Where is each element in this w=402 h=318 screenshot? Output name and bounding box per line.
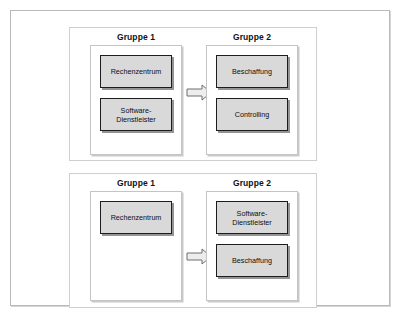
unit-box: Controlling bbox=[216, 98, 288, 131]
unit-label: Controlling bbox=[234, 110, 270, 119]
unit-box: Rechenzentrum bbox=[100, 201, 172, 234]
group-column-right-bottom: Gruppe 2 Software- Dienstleister Beschaf… bbox=[200, 178, 304, 304]
unit-box: Beschaffung bbox=[216, 244, 288, 277]
group-title: Gruppe 2 bbox=[200, 178, 304, 191]
unit-label-line-1: Software- bbox=[115, 106, 157, 115]
group-title: Gruppe 1 bbox=[84, 178, 188, 191]
group-title: Gruppe 2 bbox=[200, 32, 304, 45]
unit-box: Beschaffung bbox=[216, 55, 288, 88]
group-panel: Beschaffung Controlling bbox=[206, 45, 298, 155]
group-title: Gruppe 1 bbox=[84, 32, 188, 45]
unit-label-line-2: Dienstleister bbox=[231, 218, 273, 227]
group-panel: Rechenzentrum bbox=[90, 191, 182, 301]
unit-label: Rechenzentrum bbox=[110, 213, 163, 222]
group-panel: Software- Dienstleister Beschaffung bbox=[206, 191, 298, 301]
group-column-left-bottom: Gruppe 1 Rechenzentrum bbox=[84, 178, 188, 304]
unit-label: Beschaffung bbox=[231, 67, 273, 76]
group-panel: Rechenzentrum Software- Dienstleister bbox=[90, 45, 182, 155]
unit-box: Rechenzentrum bbox=[100, 55, 172, 88]
unit-label-line-2: Dienstleister bbox=[115, 115, 157, 124]
unit-label-wrap: Software- Dienstleister bbox=[231, 209, 273, 227]
unit-label-wrap: Software- Dienstleister bbox=[115, 106, 157, 124]
unit-label: Beschaffung bbox=[231, 256, 273, 265]
unit-box: Software- Dienstleister bbox=[216, 201, 288, 234]
unit-label: Rechenzentrum bbox=[110, 67, 163, 76]
unit-box: Software- Dienstleister bbox=[100, 98, 172, 131]
group-column-left-top: Gruppe 1 Rechenzentrum Software- Dienstl… bbox=[84, 32, 188, 158]
group-column-right-top: Gruppe 2 Beschaffung Controlling bbox=[200, 32, 304, 158]
unit-label-line-1: Software- bbox=[231, 209, 273, 218]
scenario-panel-bottom: Gruppe 1 Rechenzentrum Gruppe 2 Software… bbox=[69, 173, 317, 308]
figure-frame: Gruppe 1 Rechenzentrum Software- Dienstl… bbox=[10, 10, 390, 306]
scenario-panel-top: Gruppe 1 Rechenzentrum Software- Dienstl… bbox=[69, 27, 317, 161]
